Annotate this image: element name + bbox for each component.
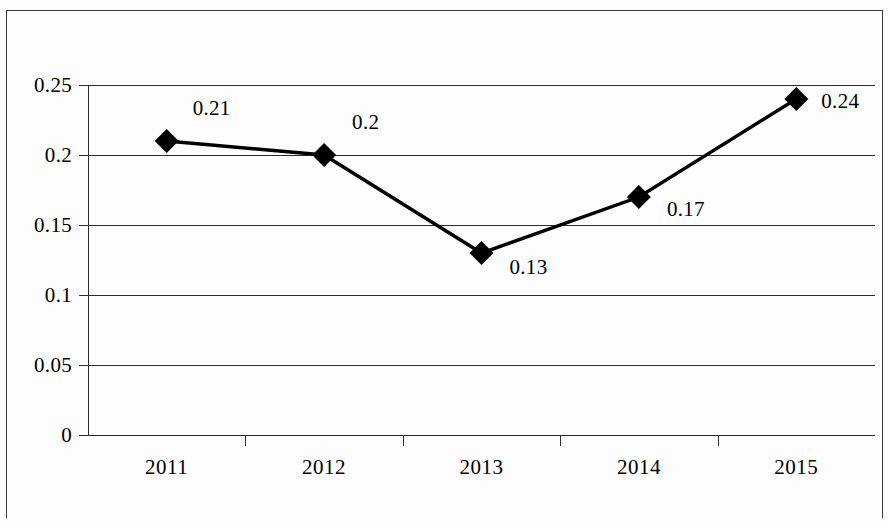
- data-point-marker-2014: [627, 185, 651, 209]
- gridline-0: [88, 435, 875, 436]
- data-point-marker-2013: [470, 241, 494, 265]
- y-tick-mark-0.15: [79, 225, 88, 226]
- data-label-2013: 0.13: [510, 257, 548, 278]
- y-tick-mark-0.1: [79, 295, 88, 296]
- data-point-marker-2015: [784, 87, 808, 111]
- y-tick-mark-0.2: [79, 155, 88, 156]
- data-label-2014: 0.17: [667, 199, 705, 220]
- x-tick-label-2011: 2011: [145, 457, 188, 478]
- chart-root: 00.050.10.150.20.25 0.210.20.130.170.24 …: [0, 0, 889, 527]
- y-tick-mark-0.25: [79, 85, 88, 86]
- plot-area: 0.210.20.130.170.24 20112012201320142015: [88, 85, 875, 435]
- y-tick-mark-0.05: [79, 365, 88, 366]
- y-tick-label-0.1: 0.1: [45, 285, 72, 306]
- y-tick-label-0: 0: [61, 425, 72, 446]
- y-tick-label-0.2: 0.2: [45, 145, 72, 166]
- x-tick-label-2014: 2014: [617, 457, 661, 478]
- y-tick-label-0.25: 0.25: [34, 75, 72, 96]
- y-tick-mark-0: [79, 435, 88, 436]
- y-tick-label-0.05: 0.05: [34, 355, 72, 376]
- x-tick-label-2012: 2012: [302, 457, 346, 478]
- y-tick-label-0.15: 0.15: [34, 215, 72, 236]
- series-line: [167, 99, 797, 253]
- x-tick-mark-1: [245, 435, 246, 446]
- data-point-marker-2011: [155, 129, 179, 153]
- x-tick-mark-2: [403, 435, 404, 446]
- x-tick-label-2015: 2015: [774, 457, 818, 478]
- data-point-marker-2012: [312, 143, 336, 167]
- series-markers: [155, 87, 809, 265]
- x-tick-mark-3: [560, 435, 561, 446]
- line-series-2011-2015: [88, 85, 875, 435]
- data-label-2011: 0.21: [193, 98, 231, 119]
- data-label-2015: 0.24: [821, 91, 859, 112]
- data-label-2012: 0.2: [352, 112, 379, 133]
- x-tick-mark-4: [718, 435, 719, 446]
- x-tick-label-2013: 2013: [460, 457, 504, 478]
